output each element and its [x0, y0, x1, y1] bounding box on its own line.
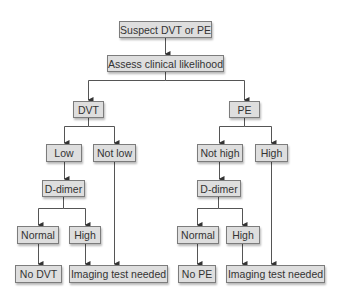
node-dvt-normal: Normal	[17, 226, 59, 244]
node-label: Imaging test needed	[71, 268, 166, 280]
node-suspect-dvt-or-pe: Suspect DVT or PE	[119, 21, 212, 38]
node-dvt-d-dimer: D-dimer	[42, 180, 85, 197]
node-label: High	[261, 147, 283, 159]
node-pe-normal: Normal	[177, 226, 219, 244]
node-label: No DVT	[20, 268, 57, 280]
node-label: Not low	[97, 147, 132, 159]
node-label: High	[74, 229, 96, 241]
dvt-pe-flowchart: Suspect DVT or PE Assess clinical likeli…	[0, 0, 344, 294]
node-label: Not high	[200, 147, 239, 159]
node-pe-d-dimer: D-dimer	[197, 180, 241, 197]
node-dvt-imaging-test-needed: Imaging test needed	[69, 265, 168, 283]
node-no-pe: No PE	[178, 265, 216, 283]
node-label: -dimer	[52, 183, 82, 195]
node-dvt: DVT	[73, 101, 104, 118]
node-label: Normal	[21, 229, 55, 241]
node-label: Imaging test needed	[228, 268, 323, 280]
node-label: -dimer	[208, 183, 238, 195]
node-assess-clinical-likelihood: Assess clinical likelihood	[107, 55, 224, 72]
node-label: Suspect DVT or PE	[120, 24, 211, 36]
node-label: Normal	[181, 229, 215, 241]
node-dvt-high: High	[69, 226, 101, 244]
node-label-prefix: D	[200, 183, 208, 195]
node-label: Assess clinical likelihood	[108, 58, 223, 70]
node-label: PE	[237, 104, 251, 116]
node-pe-high: High	[255, 144, 288, 162]
node-no-dvt: No DVT	[15, 265, 62, 283]
node-pe-imaging-test-needed: Imaging test needed	[226, 265, 325, 283]
node-label-prefix: D	[45, 183, 53, 195]
node-label: Low	[54, 147, 73, 159]
node-pe: PE	[229, 101, 260, 118]
node-pe-d-dimer-high: High	[226, 226, 260, 244]
node-label: No PE	[182, 268, 212, 280]
node-pe-not-high: Not high	[197, 144, 243, 162]
node-label: High	[232, 229, 254, 241]
node-dvt-low: Low	[46, 144, 82, 162]
node-label: DVT	[78, 104, 99, 116]
node-dvt-not-low: Not low	[93, 144, 136, 162]
